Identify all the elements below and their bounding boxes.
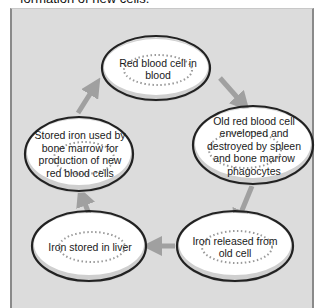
label-iron-stored-liver: Iron stored in liver xyxy=(44,240,136,254)
arrow-rbc-to-destroyed xyxy=(220,78,243,104)
label-old-rbc-destroyed: Old red blood cell enveloped and destroy… xyxy=(204,115,304,177)
label-rbc-in-blood: Red blood cell in blood xyxy=(118,56,198,82)
arrow-stored-to-rbc xyxy=(78,86,95,113)
label-iron-released: Iron released from old cell xyxy=(192,234,278,260)
label-stored-iron-used: Stored iron used by bone marrow for prod… xyxy=(34,128,126,180)
